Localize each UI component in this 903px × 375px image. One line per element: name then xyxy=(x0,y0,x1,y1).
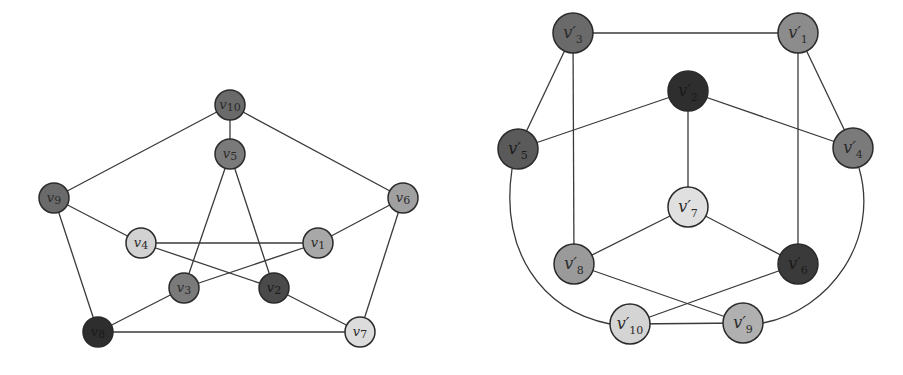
left-node-v1: v1 xyxy=(303,228,333,258)
right-curved-edge-v4p-v9p xyxy=(763,168,864,323)
left-node-v5: v5 xyxy=(215,139,245,169)
right-node-v10p: v′10 xyxy=(610,304,650,344)
left-edge-v5-v3 xyxy=(184,154,230,288)
graph-isomorphism-diagram: v1v2v3v4v5v6v7v8v9v10 v′1v′2v′3v′4v′5v′6… xyxy=(0,0,903,375)
left-edge-v10-v6 xyxy=(230,105,403,198)
left-node-v2: v2 xyxy=(259,273,289,303)
left-edge-v1-v3 xyxy=(184,243,318,288)
right-edge-v2p-v5p xyxy=(518,91,688,149)
left-edge-v6-v7 xyxy=(360,198,403,332)
left-node-v4: v4 xyxy=(126,228,156,258)
right-node-v4p: v′4 xyxy=(833,128,873,168)
right-node-v2p: v′2 xyxy=(668,71,708,111)
right-node-v7p: v′7 xyxy=(668,187,708,227)
right-curved-edge-v5p-v10p xyxy=(510,169,610,324)
left-node-v10: v10 xyxy=(215,90,245,120)
left-node-v6: v6 xyxy=(388,183,418,213)
left-graph-nodes: v1v2v3v4v5v6v7v8v9v10 xyxy=(39,90,418,347)
left-edge-v4-v2 xyxy=(141,243,274,288)
right-node-v1p: v′1 xyxy=(778,13,818,53)
left-node-v9: v9 xyxy=(39,183,69,213)
right-edge-v6p-v10p xyxy=(630,264,798,324)
right-node-v5p: v′5 xyxy=(498,129,538,169)
right-node-v9p: v′9 xyxy=(723,303,763,343)
left-node-v3: v3 xyxy=(169,273,199,303)
left-node-v7: v7 xyxy=(345,317,375,347)
left-edge-v5-v2 xyxy=(230,154,274,288)
right-graph-nodes: v′1v′2v′3v′4v′5v′6v′7v′8v′9v′10 xyxy=(498,13,873,344)
right-edge-v2p-v4p xyxy=(688,91,853,148)
left-edge-v10-v9 xyxy=(54,105,230,198)
left-node-v8: v8 xyxy=(83,317,113,347)
right-edge-v3p-v8p xyxy=(573,33,574,264)
right-node-v6p: v′6 xyxy=(778,244,818,284)
left-edge-v9-v8 xyxy=(54,198,98,332)
right-node-v3p: v′3 xyxy=(553,13,593,53)
right-node-v8p: v′8 xyxy=(554,244,594,284)
